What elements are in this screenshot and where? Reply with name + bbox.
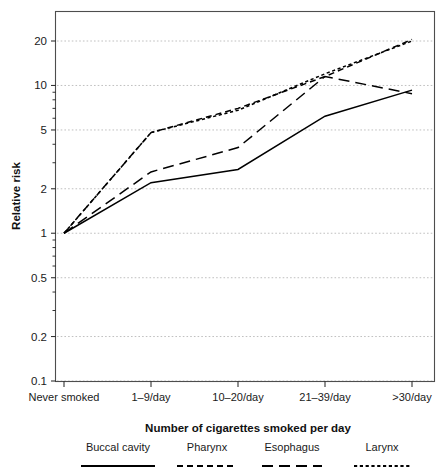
x-axis-title: Number of cigarettes smoked per day <box>145 422 351 434</box>
x-tick-label: 10–20/day <box>212 391 264 403</box>
x-tick-label: Never smoked <box>29 391 100 403</box>
y-tick-label: 20 <box>34 35 47 47</box>
y-tick-label: 0.5 <box>31 272 47 284</box>
legend-label-larynx: Larynx <box>365 441 399 453</box>
series-line-pharynx <box>64 39 412 233</box>
y-tick-label: 1 <box>41 227 47 239</box>
x-tick-label: 1–9/day <box>131 391 171 403</box>
plot-frame <box>56 12 435 382</box>
horizontal-gridlines <box>57 41 433 381</box>
y-axis-tick-labels: 20105210.50.20.1 <box>31 35 47 387</box>
y-tick-label: 10 <box>34 79 47 91</box>
x-axis-tick-labels: Never smoked1–9/day10–20/day21–39/day>30… <box>29 391 433 403</box>
y-axis-title: Relative risk <box>10 162 22 230</box>
chart-figure: 20105210.50.20.1 Never smoked1–9/day10–2… <box>0 0 445 475</box>
legend-label-buccal-cavity: Buccal cavity <box>86 441 151 453</box>
series-line-esophagus <box>64 77 412 234</box>
legend-label-esophagus: Esophagus <box>264 441 320 453</box>
data-series-lines <box>64 39 412 233</box>
chart-legend: Buccal cavityPharynxEsophagusLarynx <box>81 441 410 466</box>
legend-label-pharynx: Pharynx <box>187 441 228 453</box>
y-tick-label: 5 <box>41 124 47 136</box>
series-line-larynx <box>64 41 412 233</box>
x-tick-label: 21–39/day <box>299 391 351 403</box>
y-tick-label: 2 <box>41 183 47 195</box>
relative-risk-line-chart: 20105210.50.20.1 Never smoked1–9/day10–2… <box>0 0 445 475</box>
series-line-buccal-cavity <box>64 90 412 233</box>
y-tick-label: 0.2 <box>31 331 47 343</box>
x-tick-label: >30/day <box>392 391 432 403</box>
y-tick-label: 0.1 <box>31 375 47 387</box>
